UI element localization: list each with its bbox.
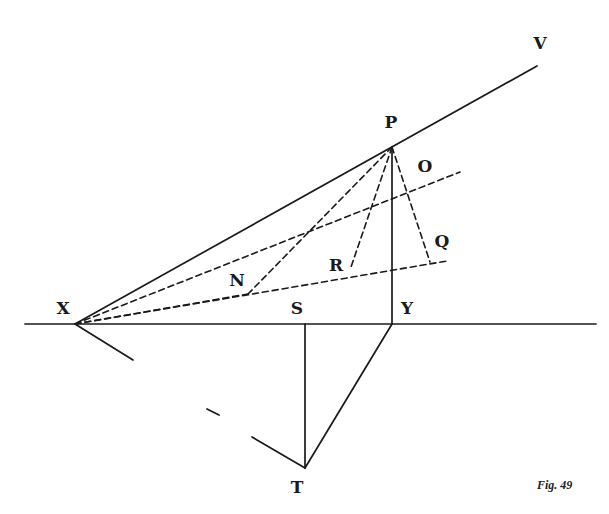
line-yt: [305, 324, 392, 468]
dashed-line-pn: [248, 147, 392, 294]
label-x: X: [56, 300, 69, 317]
line-to-t: [252, 437, 305, 468]
label-v: V: [533, 35, 546, 52]
label-s: S: [291, 300, 303, 317]
label-q: Q: [435, 233, 450, 250]
figure-drawing: [0, 0, 609, 514]
geometry-figure: V P O Q R N X S Y T Fig. 49: [0, 0, 609, 514]
label-r: R: [329, 257, 343, 274]
label-t: T: [291, 479, 304, 496]
line-x-lower: [75, 324, 133, 360]
label-p: P: [385, 114, 398, 131]
label-y: Y: [401, 300, 413, 317]
figure-caption: Fig. 49: [537, 478, 572, 493]
label-n: N: [229, 272, 245, 289]
line-fragment: [207, 409, 219, 415]
dashed-line-pr: [350, 147, 392, 270]
label-o: O: [418, 158, 433, 175]
